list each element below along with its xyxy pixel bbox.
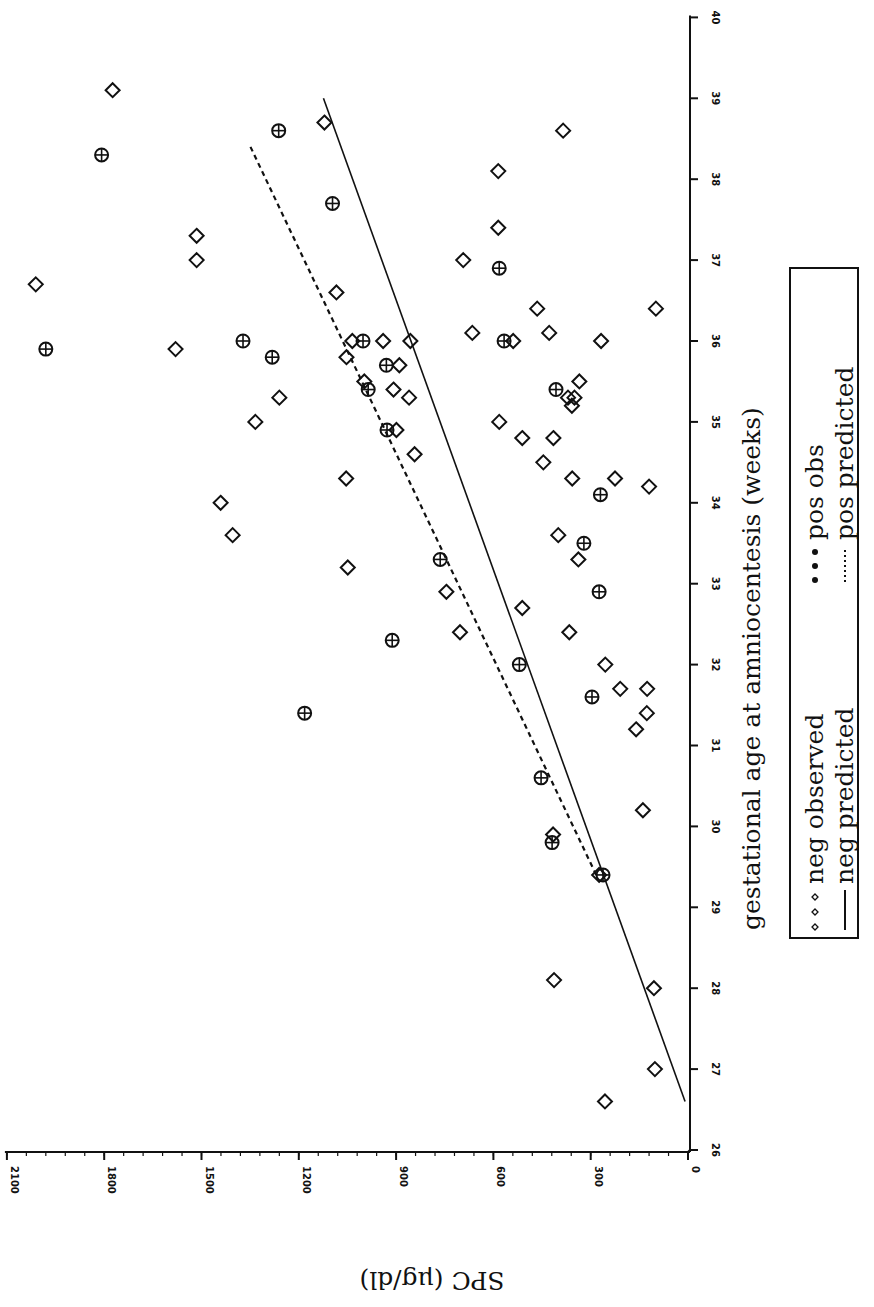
neg-observed-point: [594, 334, 608, 348]
legend-neg-observed-marker: [812, 894, 818, 930]
data-points: [29, 83, 663, 1108]
pos-obs-point: [386, 634, 399, 647]
weeks-tick-label: 37: [710, 253, 721, 267]
neg-observed-point: [536, 455, 550, 469]
neg-observed-point: [492, 415, 506, 429]
weeks-tick-label: 34: [710, 496, 721, 510]
neg-observed-point: [408, 447, 422, 461]
spc-tick-label: 1800: [106, 1166, 117, 1194]
legend-neg-predicted-label: neg predicted: [830, 708, 859, 884]
neg-observed-point: [556, 124, 570, 138]
neg-observed-point: [272, 391, 286, 405]
pos-obs-point: [549, 383, 562, 396]
neg-observed-point: [491, 164, 505, 178]
pos-obs-point: [585, 690, 598, 703]
neg-observed-point: [491, 221, 505, 235]
neg-observed-point: [515, 431, 529, 445]
legend-pos-predicted-label: pos predicted: [830, 367, 859, 540]
weeks-tick-label: 30: [710, 819, 721, 833]
neg-observed-point: [29, 277, 43, 291]
neg-observed-point: [214, 496, 228, 510]
weeks-axis-title: gestational age at amniocentesis (weeks): [737, 407, 766, 930]
pos-obs-point: [272, 124, 285, 137]
neg-observed-point: [642, 480, 656, 494]
pos-obs-point: [593, 585, 606, 598]
neg-observed-point: [248, 415, 262, 429]
weeks-tick-label: 29: [710, 900, 721, 914]
pos-obs-point: [434, 553, 447, 566]
neg-observed-point: [341, 561, 355, 575]
neg-observed-point: [572, 374, 586, 388]
neg-observed-point: [647, 981, 661, 995]
weeks-tick-label: 39: [710, 91, 721, 105]
legend: neg observed pos obs neg predicted pos p…: [790, 268, 859, 938]
neg-observed-point: [598, 658, 612, 672]
neg-observed-point: [339, 350, 353, 364]
pos-obs-point: [326, 197, 339, 210]
neg-observed-point: [629, 722, 643, 736]
pos-obs-point: [493, 262, 506, 275]
neg-observed-point: [551, 528, 565, 542]
neg-observed-point: [376, 334, 390, 348]
neg-observed-point: [648, 1062, 662, 1076]
neg-observed-point: [640, 706, 654, 720]
pos-obs-point: [237, 335, 250, 348]
neg-observed-point: [562, 625, 576, 639]
neg-observed-point: [613, 682, 627, 696]
spc-tick-label: 2100: [9, 1166, 20, 1194]
neg-predicted-line: [323, 98, 685, 1101]
neg-observed-point: [547, 973, 561, 987]
pos-obs-point: [380, 359, 393, 372]
neg-observed-point: [565, 472, 579, 486]
neg-observed-point: [465, 326, 479, 340]
neg-observed-point: [649, 302, 663, 316]
pos-obs-point: [95, 148, 108, 161]
pos-obs-point: [298, 707, 311, 720]
legend-neg-observed-label: neg observed: [800, 714, 829, 884]
neg-observed-point: [402, 391, 416, 405]
neg-observed-point: [542, 326, 556, 340]
weeks-tick-label: 26: [710, 1143, 721, 1157]
tick-labels: 0300600900120015001800210026272829303132…: [9, 10, 721, 1193]
pos-obs-point: [513, 658, 526, 671]
spc-tick-label: 900: [398, 1166, 409, 1187]
pos-obs-point: [597, 868, 610, 881]
weeks-tick-label: 32: [710, 658, 721, 672]
neg-observed-point: [598, 1094, 612, 1108]
neg-observed-point: [392, 358, 406, 372]
pos-obs-point: [39, 343, 52, 356]
weeks-tick-label: 28: [710, 981, 721, 995]
neg-observed-point: [608, 472, 622, 486]
spc-tick-label: 0: [690, 1166, 701, 1173]
regression-lines: [250, 98, 685, 1101]
neg-observed-point: [515, 601, 529, 615]
pos-predicted-line: [250, 147, 596, 875]
weeks-tick-label: 33: [710, 577, 721, 591]
pos-obs-point: [357, 335, 370, 348]
spc-axis-title: SPC (μg/dl): [359, 1266, 504, 1295]
neg-observed-point: [190, 253, 204, 267]
neg-observed-point: [169, 342, 183, 356]
weeks-tick-label: 31: [710, 739, 721, 753]
neg-observed-point: [387, 383, 401, 397]
spc-tick-label: 300: [593, 1166, 604, 1187]
weeks-tick-label: 35: [710, 415, 721, 429]
neg-observed-point: [640, 682, 654, 696]
neg-observed-point: [106, 83, 120, 97]
pos-obs-point: [498, 335, 511, 348]
neg-observed-point: [636, 803, 650, 817]
neg-observed-point: [456, 253, 470, 267]
neg-observed-point: [530, 302, 544, 316]
neg-observed-point: [190, 229, 204, 243]
pos-obs-point: [577, 537, 590, 550]
spc-tick-label: 600: [495, 1166, 506, 1187]
neg-observed-point: [226, 528, 240, 542]
neg-observed-point: [329, 285, 343, 299]
neg-observed-point: [546, 431, 560, 445]
neg-observed-point: [339, 472, 353, 486]
weeks-tick-label: 27: [710, 1062, 721, 1076]
pos-obs-point: [535, 771, 548, 784]
legend-pos-obs-label: pos obs: [800, 444, 829, 540]
spc-tick-label: 1500: [204, 1166, 215, 1194]
neg-observed-point: [317, 116, 331, 130]
